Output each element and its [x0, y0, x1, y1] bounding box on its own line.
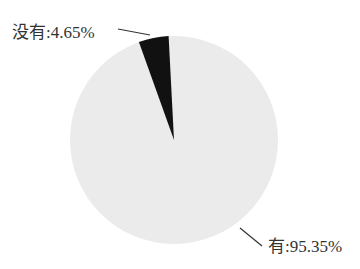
- leader-line-no: [118, 29, 150, 35]
- label-yes: 有:95.35%: [268, 232, 342, 257]
- label-no: 没有:4.65%: [12, 18, 95, 43]
- leader-line-yes: [240, 228, 262, 246]
